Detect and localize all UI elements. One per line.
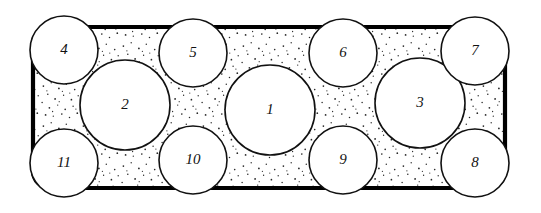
circle-label-5: 5 (189, 44, 197, 60)
circle-packing-figure: 1234567891011 (0, 0, 541, 213)
circle-label-10: 10 (186, 151, 202, 167)
circle-label-9: 9 (339, 151, 347, 167)
packing-diagram: 1234567891011 (0, 0, 541, 213)
circle-label-8: 8 (471, 154, 479, 170)
circle-label-4: 4 (60, 41, 68, 57)
circle-label-11: 11 (57, 154, 71, 170)
circle-label-2: 2 (121, 96, 129, 112)
circle-label-6: 6 (339, 44, 347, 60)
circle-label-1: 1 (266, 101, 274, 117)
circle-label-3: 3 (415, 94, 424, 110)
